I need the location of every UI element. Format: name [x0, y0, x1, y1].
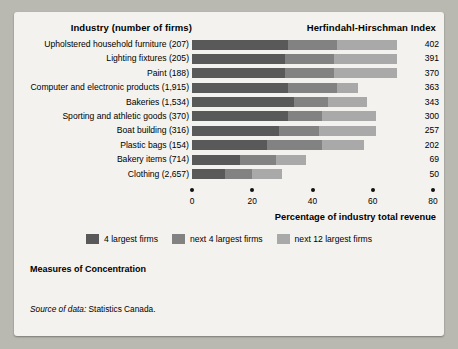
bar-segment-3 [322, 140, 364, 150]
axis-tick-label: 80 [420, 196, 444, 206]
legend-item: 4 largest firms [86, 234, 158, 244]
table-row: Computer and electronic products (1,915)… [14, 81, 444, 95]
legend-label: next 12 largest firms [295, 234, 372, 244]
table-row: Clothing (2,657)50 [14, 168, 444, 182]
source-label: Source of data: [30, 304, 86, 314]
legend-swatch [172, 234, 185, 244]
bar-segment-2 [285, 68, 333, 78]
row-label: Bakeries (1,534) [14, 97, 189, 107]
axis-tick-label: 20 [239, 196, 265, 206]
axis-tick-label: 40 [300, 196, 326, 206]
hhi-value: 343 [409, 97, 439, 107]
source-note: Source of data: Statistics Canada. [30, 304, 155, 314]
hhi-value: 370 [409, 68, 439, 78]
bar-segment-1 [192, 97, 294, 107]
bar-rows: Upholstered household furniture (207)402… [14, 38, 444, 182]
bar-segment-2 [288, 83, 336, 93]
legend-swatch [86, 234, 99, 244]
hhi-value: 202 [409, 140, 439, 150]
bar-segment-3 [276, 155, 306, 165]
row-label: Computer and electronic products (1,915) [14, 82, 189, 92]
table-row: Lighting fixtures (205)391 [14, 52, 444, 66]
bar-segment-1 [192, 54, 285, 64]
table-row: Bakery items (714)69 [14, 153, 444, 167]
stacked-bar [192, 54, 397, 64]
legend-swatch [277, 234, 290, 244]
stacked-bar [192, 40, 397, 50]
bar-segment-3 [334, 68, 397, 78]
hhi-value: 363 [409, 82, 439, 92]
stacked-bar [192, 111, 376, 121]
chart-legend: 4 largest firmsnext 4 largest firmsnext … [14, 234, 444, 244]
bar-segment-2 [267, 140, 321, 150]
source-value: Statistics Canada. [86, 304, 155, 314]
legend-item: next 12 largest firms [277, 234, 372, 244]
bar-segment-3 [322, 111, 376, 121]
row-label: Plastic bags (154) [14, 140, 189, 150]
bar-segment-2 [279, 126, 318, 136]
bar-segment-2 [225, 169, 252, 179]
stacked-bar [192, 68, 397, 78]
hhi-column-header: Herfindahl-Hirschman Index [214, 22, 436, 33]
bar-segment-1 [192, 111, 288, 121]
legend-label: 4 largest firms [104, 234, 158, 244]
bar-segment-3 [252, 169, 282, 179]
bar-segment-3 [328, 97, 367, 107]
table-row: Boat building (316)257 [14, 124, 444, 138]
industry-column-header: Industry (number of firms) [14, 22, 192, 33]
hhi-value: 300 [409, 111, 439, 121]
axis-tick [371, 188, 375, 192]
bar-segment-1 [192, 83, 288, 93]
stacked-bar [192, 155, 306, 165]
bar-segment-2 [288, 40, 336, 50]
table-row: Bakeries (1,534)343 [14, 96, 444, 110]
row-label: Boat building (316) [14, 125, 189, 135]
axis-tick-label: 60 [360, 196, 386, 206]
legend-item: next 4 largest firms [172, 234, 263, 244]
table-row: Plastic bags (154)202 [14, 139, 444, 153]
bar-segment-3 [319, 126, 376, 136]
row-label: Paint (188) [14, 68, 189, 78]
bar-segment-3 [334, 54, 397, 64]
chart-figure: Industry (number of firms) Herfindahl-Hi… [14, 12, 444, 336]
hhi-value: 391 [409, 53, 439, 63]
row-label: Upholstered household furniture (207) [14, 39, 189, 49]
stacked-bar [192, 140, 364, 150]
measures-of-concentration-label: Measures of Concentration [30, 264, 146, 274]
bar-segment-3 [337, 40, 397, 50]
hhi-value: 50 [409, 169, 439, 179]
hhi-value: 69 [409, 154, 439, 164]
bar-segment-2 [240, 155, 276, 165]
stacked-bar [192, 169, 282, 179]
row-label: Lighting fixtures (205) [14, 53, 189, 63]
bar-segment-2 [285, 54, 333, 64]
bar-segment-3 [337, 83, 358, 93]
legend-label: next 4 largest firms [190, 234, 263, 244]
bar-segment-1 [192, 140, 267, 150]
bar-segment-1 [192, 40, 288, 50]
bar-segment-1 [192, 155, 240, 165]
bar-segment-1 [192, 68, 285, 78]
stacked-bar [192, 97, 367, 107]
hhi-value: 257 [409, 125, 439, 135]
bar-segment-1 [192, 169, 225, 179]
bar-segment-2 [294, 97, 327, 107]
stacked-bar [192, 83, 358, 93]
hhi-value: 402 [409, 39, 439, 49]
stacked-bar [192, 126, 376, 136]
axis-tick [431, 188, 435, 192]
table-row: Upholstered household furniture (207)402 [14, 38, 444, 52]
row-label: Bakery items (714) [14, 154, 189, 164]
table-row: Sporting and athletic goods (370)300 [14, 110, 444, 124]
chart-header: Industry (number of firms) Herfindahl-Hi… [14, 22, 444, 36]
axis-tick-label: 0 [179, 196, 205, 206]
x-axis-title: Percentage of industry total revenue [214, 212, 436, 222]
axis-tick [311, 188, 315, 192]
axis-tick [190, 188, 194, 192]
bar-segment-2 [288, 111, 321, 121]
table-row: Paint (188)370 [14, 67, 444, 81]
row-label: Sporting and athletic goods (370) [14, 111, 189, 121]
axis-tick [250, 188, 254, 192]
bar-segment-1 [192, 126, 279, 136]
row-label: Clothing (2,657) [14, 169, 189, 179]
